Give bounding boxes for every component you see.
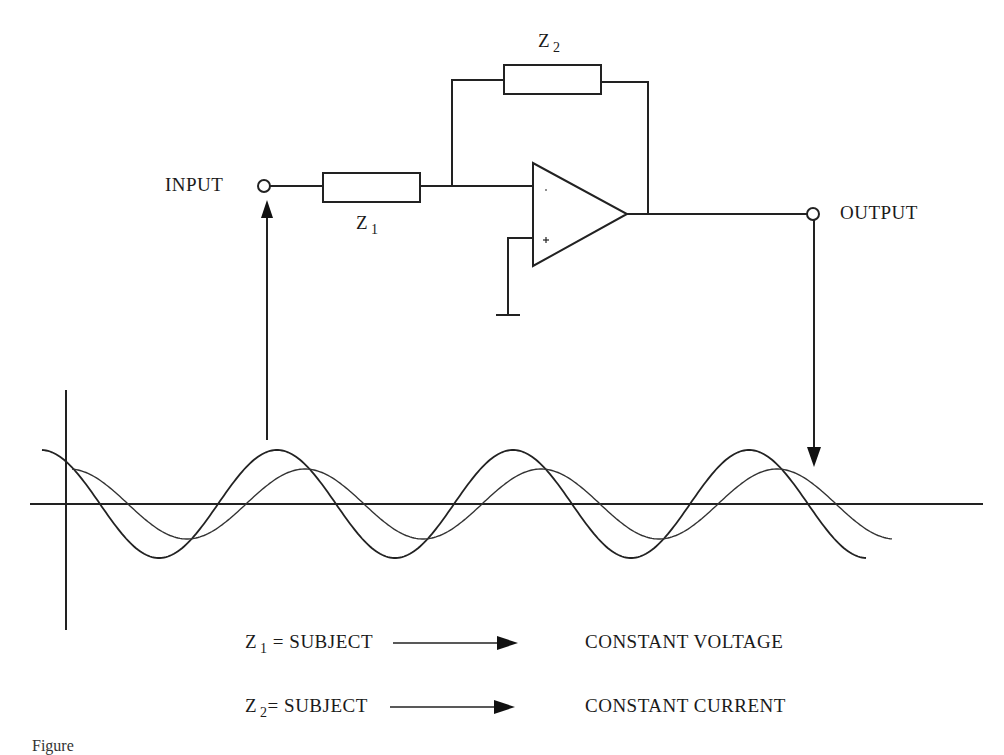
z1-subscript: 1 (371, 222, 379, 237)
legend-z1-eq: = SUBJECT (273, 631, 373, 652)
output-label: OUTPUT (840, 202, 918, 224)
impedance-z2 (504, 65, 601, 94)
output-terminal (807, 208, 819, 220)
legend-arrow-head-1 (497, 636, 518, 650)
impedance-z1 (323, 173, 420, 202)
legend-row-1-result: CONSTANT VOLTAGE (585, 631, 783, 653)
input-label: INPUT (165, 174, 223, 196)
legend-z2-eq: = SUBJECT (268, 695, 368, 716)
z2-label: Z2 (538, 30, 561, 52)
z2-symbol: Z (538, 30, 550, 51)
legend-z2-subscript: 2 (260, 705, 268, 720)
legend-row-2-result: CONSTANT CURRENT (585, 695, 786, 717)
input-arrow-head (261, 200, 273, 218)
input-terminal (258, 180, 270, 192)
legend-arrow-head-2 (494, 700, 515, 714)
z2-subscript: 2 (553, 40, 561, 55)
legend-row-2-left: Z2= SUBJECT (245, 695, 368, 717)
legend-row-1-left: Z1 = SUBJECT (245, 631, 373, 653)
legend-z2-symbol: Z (245, 695, 257, 716)
z1-label: Z1 (356, 212, 379, 234)
opamp-triangle (533, 163, 627, 266)
figure-caption: Figure (32, 737, 74, 755)
output-arrow-head (807, 447, 821, 467)
legend-z1-subscript: 1 (260, 641, 268, 656)
z1-symbol: Z (356, 212, 368, 233)
legend-z1-symbol: Z (245, 631, 257, 652)
